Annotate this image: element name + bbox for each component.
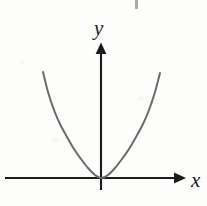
x-axis-label: x: [191, 170, 200, 191]
y-axis-label: y: [94, 18, 103, 39]
y-axis-arrowhead: [96, 43, 107, 55]
x-axis-arrowhead: [174, 173, 186, 184]
coordinate-plane-svg: [0, 0, 207, 206]
parabola-figure: y x: [0, 0, 207, 206]
